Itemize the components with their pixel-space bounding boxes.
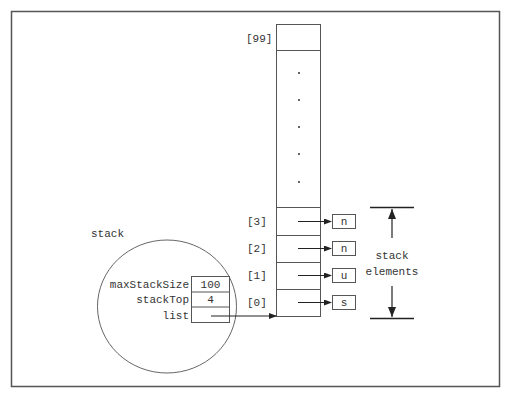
array-index-label-top: [99]: [246, 33, 272, 45]
array-index-label: [3]: [247, 216, 267, 228]
element-value: n: [341, 243, 348, 255]
element-value: n: [341, 216, 348, 228]
stack-diagram: [99] [3] [2] [1] [0] n n u s stack eleme…: [0, 0, 511, 397]
field-name: maxStackSize: [110, 279, 189, 291]
bracket-label-line2: elements: [366, 266, 419, 278]
element-value: s: [341, 297, 348, 309]
field-name: stackTop: [136, 294, 189, 306]
field-name: list: [163, 310, 189, 322]
ellipsis-dot: [298, 153, 300, 155]
array-outline: [277, 25, 321, 317]
element-value: u: [341, 270, 348, 282]
array-index-label: [0]: [247, 297, 267, 309]
ellipsis-dot: [298, 72, 300, 74]
array-index-label: [1]: [247, 270, 267, 282]
ellipsis-dot: [298, 181, 300, 183]
array: [99] [3] [2] [1] [0]: [246, 25, 331, 317]
array-index-label: [2]: [247, 243, 267, 255]
bracket-label-line1: stack: [375, 250, 408, 262]
stack-elements: n n u s: [333, 215, 356, 310]
ellipsis-dot: [298, 99, 300, 101]
field-value: 4: [207, 294, 214, 306]
diagram-frame: [12, 12, 500, 387]
field-value: 100: [201, 279, 221, 291]
ellipsis-dot: [298, 126, 300, 128]
struct-label: stack: [91, 228, 124, 240]
stack-elements-bracket: stack elements: [366, 208, 419, 319]
